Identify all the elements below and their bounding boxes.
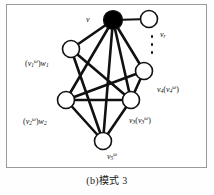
graph-node-w1[interactable] <box>63 41 80 58</box>
figure-caption: (b)模式 3 <box>0 172 214 187</box>
graph-node-vr[interactable] <box>141 11 158 28</box>
node-label-vr: vr <box>160 31 166 40</box>
figure-root: vvr(v1ω)w1v4(v4ω)(v2ω)w2v3(v3ω)v5ω (b)模式… <box>0 0 214 195</box>
ellipsis-dot <box>151 43 154 46</box>
graph-node-v5[interactable] <box>95 133 112 150</box>
node-label-w1: (v1ω)w1 <box>25 59 49 69</box>
node-label-w2: (v2ω)w2 <box>23 117 47 127</box>
node-label-v5: v5ω <box>107 152 117 162</box>
graph-node-v3[interactable] <box>123 92 140 109</box>
graph-node-w2[interactable] <box>58 92 75 109</box>
node-label-v4: v4(v4ω) <box>157 85 179 95</box>
vertical-ellipsis-icon <box>149 35 155 61</box>
figure-panel: vvr(v1ω)w1v4(v4ω)(v2ω)w2v3(v3ω)v5ω <box>6 4 207 168</box>
node-label-v3: v3(v3ω) <box>129 116 151 126</box>
graph-edge <box>66 20 113 100</box>
graph-node-v4[interactable] <box>136 63 153 80</box>
node-label-v: v <box>86 16 90 24</box>
ellipsis-dot <box>151 51 154 54</box>
ellipsis-dot <box>151 35 154 38</box>
graph-node-v[interactable] <box>104 11 123 30</box>
